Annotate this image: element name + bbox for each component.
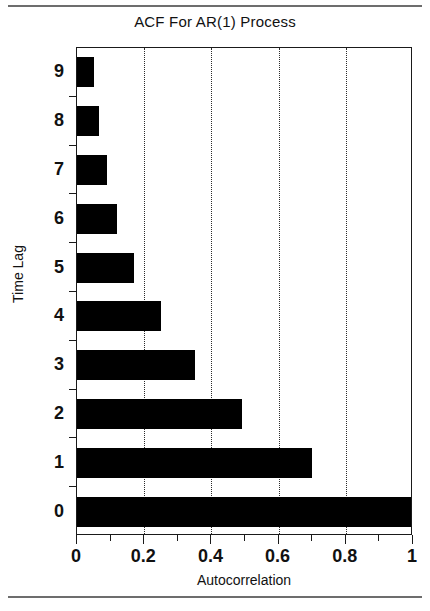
bar-lag-4: [77, 301, 161, 331]
x-axis-ticks: [76, 535, 412, 545]
x-ticklabel-0-8: 0.8: [332, 546, 357, 567]
y-axis-title: Time Lag: [10, 234, 26, 314]
x-tick-1: [412, 535, 413, 544]
x-ticklabel-0-6: 0.6: [265, 546, 290, 567]
bottom-rule-divider: [8, 596, 422, 598]
y-axis-ticklabels: 0123456789: [30, 47, 64, 535]
y-ticklabel-9: 9: [54, 61, 64, 82]
figure-container: ACF For AR(1) Process 00.20.40.60.81 Aut…: [0, 0, 430, 611]
x-axis-title: Autocorrelation: [76, 572, 412, 588]
x-ticklabel-0: 0: [71, 546, 81, 567]
x-tick-0: [76, 535, 77, 544]
top-rule-divider: [8, 5, 422, 7]
bar-lag-9: [77, 57, 94, 87]
x-ticklabel-0-4: 0.4: [198, 546, 223, 567]
y-ticklabel-4: 4: [54, 305, 64, 326]
y-tick-4: [69, 242, 77, 243]
x-tick-0-2: [143, 535, 144, 544]
y-ticklabel-8: 8: [54, 110, 64, 131]
y-ticklabel-1: 1: [54, 451, 64, 472]
bar-lag-2: [77, 399, 242, 429]
y-tick-2: [69, 145, 77, 146]
chart-title: ACF For AR(1) Process: [0, 13, 430, 30]
bar-lag-7: [77, 155, 107, 185]
plot-area: [76, 47, 412, 535]
x-tick-0-6: [278, 535, 279, 544]
bar-lag-0: [77, 497, 412, 527]
y-axis-ticks: [69, 47, 77, 535]
x-minor-tick-0-5: [244, 535, 245, 541]
x-ticklabel-1: 1: [407, 546, 417, 567]
y-tick-6: [69, 340, 77, 341]
y-ticklabel-6: 6: [54, 207, 64, 228]
y-tick-7: [69, 389, 77, 390]
y-tick-3: [69, 193, 77, 194]
bar-lag-1: [77, 448, 312, 478]
y-ticklabel-3: 3: [54, 354, 64, 375]
x-axis-ticklabels: 00.20.40.60.81: [76, 546, 412, 570]
y-tick-8: [69, 437, 77, 438]
y-tick-9: [69, 486, 77, 487]
y-ticklabel-7: 7: [54, 159, 64, 180]
x-minor-tick-0-9: [378, 535, 379, 541]
bars-layer: [77, 48, 411, 534]
y-tick-5: [69, 291, 77, 292]
x-minor-tick-0-7: [311, 535, 312, 541]
bar-lag-8: [77, 106, 99, 136]
bar-lag-5: [77, 253, 134, 283]
x-ticklabel-0-2: 0.2: [131, 546, 156, 567]
y-ticklabel-2: 2: [54, 403, 64, 424]
x-tick-0-8: [345, 535, 346, 544]
y-tick-1: [69, 96, 77, 97]
bar-lag-3: [77, 350, 195, 380]
bar-lag-6: [77, 204, 117, 234]
y-ticklabel-5: 5: [54, 256, 64, 277]
y-ticklabel-0: 0: [54, 500, 64, 521]
x-minor-tick-0-1: [110, 535, 111, 541]
x-minor-tick-0-3: [177, 535, 178, 541]
x-tick-0-4: [210, 535, 211, 544]
